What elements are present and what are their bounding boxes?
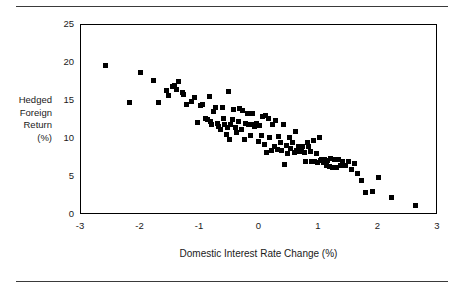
scatter-point [352,161,357,166]
y-axis-title-line-1: Hedged [6,94,52,107]
scatter-point [250,111,255,116]
scatter-point [276,134,281,139]
scatter-point [176,79,181,84]
y-axis-tick-label: 5 [50,171,74,181]
scatter-point [343,163,348,168]
scatter-point [285,151,290,156]
scatter-point [221,116,226,121]
scatter-point [127,100,132,105]
scatter-point [192,95,197,100]
scatter-point [317,135,322,140]
scatter-point [266,116,271,121]
y-axis-tick-label: 10 [50,133,74,143]
x-axis-title: Domestic Interest Rate Change (%) [80,248,437,259]
x-axis-tick-label: -1 [184,220,214,231]
y-axis-tick-labels: 0510152025 [48,0,74,292]
scatter-point [370,189,375,194]
scatter-point [213,105,218,110]
top-divider-rule [16,6,448,7]
scatter-point [303,159,308,164]
scatter-point [262,142,267,147]
scatter-point [245,111,250,116]
scatter-point [236,119,241,124]
scatter-point [376,175,381,180]
scatter-point [230,117,235,122]
scatter-point [257,123,262,128]
scatter-point [195,120,200,125]
scatter-point [355,171,360,176]
x-axis-tick-label: 1 [303,220,333,231]
scatter-point [103,63,108,68]
plot-area [80,24,437,214]
scatter-point [293,129,298,134]
scatter-point [231,107,236,112]
scatter-point [282,162,287,167]
scatter-point [389,195,394,200]
scatter-point [311,138,316,143]
scatter-point [248,133,253,138]
scatter-point [308,149,313,154]
x-axis-tick-label: -3 [65,220,95,231]
scatter-point [279,148,284,153]
scatter-point [166,93,171,98]
y-axis-tick-label: 20 [50,57,74,67]
scatter-point [300,144,305,149]
scatter-point [259,133,264,138]
x-axis-tick-labels: -3-2-10123 [0,220,461,234]
scatter-point [281,122,286,127]
scatter-point [227,137,232,142]
x-axis-tick-label: -2 [125,220,155,231]
scatter-point [174,87,179,92]
scatter-point [151,78,156,83]
scatter-points-layer [81,25,436,213]
x-axis-tick-label: 0 [244,220,274,231]
scatter-chart-figure: Hedged Foreign Return (%) 0510152025 -3-… [0,0,461,292]
scatter-point [267,135,272,140]
scatter-point [346,159,351,164]
scatter-point [207,94,212,99]
scatter-point [302,150,307,155]
y-axis-title-line-2: Foreign [6,107,52,120]
scatter-point [138,70,143,75]
scatter-point [226,89,231,94]
scatter-point [211,109,216,114]
y-axis-title: Hedged Foreign Return (%) [6,94,52,144]
y-axis-tick-label: 15 [50,95,74,105]
x-axis-tick-label: 3 [422,220,452,231]
scatter-point [278,140,283,145]
bottom-divider-rule [16,281,448,282]
x-axis-tick-label: 2 [363,220,393,231]
scatter-point [363,190,368,195]
scatter-point [290,140,295,145]
y-axis-tick-label: 25 [50,19,74,29]
scatter-point [256,139,261,144]
scatter-point [156,100,161,105]
scatter-point [359,178,364,183]
y-axis-title-line-4: (%) [6,132,52,145]
scatter-point [242,137,247,142]
scatter-point [314,151,319,156]
scatter-point [349,167,354,172]
scatter-point [200,102,205,107]
scatter-point [209,122,214,127]
scatter-point [181,92,186,97]
scatter-point [239,127,244,132]
scatter-point [273,118,278,123]
y-axis-title-line-3: Return [6,119,52,132]
scatter-point [218,127,223,132]
scatter-point [220,105,225,110]
scatter-point [413,203,418,208]
y-axis-tick-label: 0 [50,209,74,219]
